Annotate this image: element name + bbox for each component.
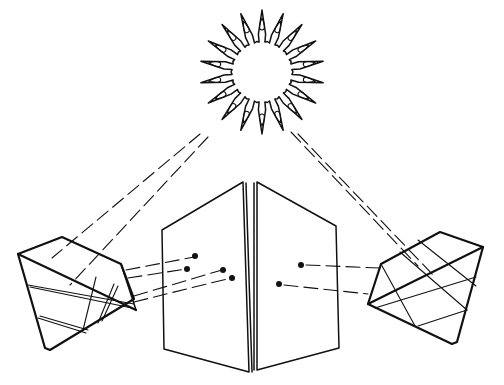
sun-icon bbox=[201, 10, 323, 134]
folded-screen bbox=[162, 182, 339, 372]
right-prism bbox=[368, 232, 483, 344]
screen-panel-right bbox=[257, 182, 339, 370]
refracted-beams-right bbox=[284, 265, 380, 294]
refracted-beams-left bbox=[126, 257, 231, 302]
sun-beams-right bbox=[291, 132, 435, 277]
screen-panel-left bbox=[162, 182, 249, 372]
spectrum-dots bbox=[184, 253, 304, 287]
sun-beams-left bbox=[52, 134, 208, 285]
left-prism bbox=[18, 237, 136, 350]
prism-diagram bbox=[0, 0, 504, 385]
